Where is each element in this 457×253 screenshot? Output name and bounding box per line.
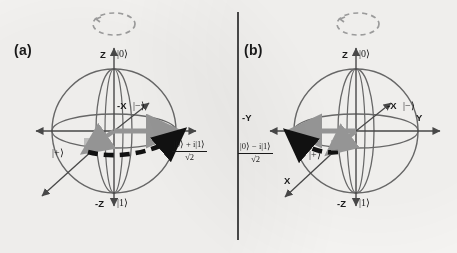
panel-a-label: (a) [14, 42, 32, 58]
panel-b: (b) Z |0⟩ -Z |1⟩ -X |−⟩ X |+⟩ Y -Y |0⟩ −… [228, 0, 457, 253]
neg-z-axis-ket-a: |1⟩ [117, 198, 128, 208]
panel-a: (a) Z |0⟩ -Z |1⟩ -X |−⟩ |+⟩ |0⟩ + i|1⟩ √… [0, 0, 228, 253]
x-axis-ket-b: |+⟩ [309, 150, 321, 160]
neg-x-axis-ket-b: |−⟩ [403, 101, 415, 111]
bloch-sphere-figure: (a) Z |0⟩ -Z |1⟩ -X |−⟩ |+⟩ |0⟩ + i|1⟩ √… [0, 0, 457, 253]
y-axis-label-b: Y [416, 113, 422, 123]
neg-x-axis-label-b: -X [387, 101, 397, 111]
state-formula-denominator-a: √2 [172, 152, 207, 163]
z-axis-label-a: Z [100, 50, 106, 60]
state-formula-numerator-b: |0⟩ − i|1⟩ [238, 142, 273, 154]
state-formula-numerator-a: |0⟩ + i|1⟩ [172, 140, 207, 152]
neg-x-axis-label-a: -X [117, 101, 127, 111]
z-axis-label-b: Z [342, 50, 348, 60]
neg-x-axis-ket-a: |−⟩ [133, 101, 145, 111]
z-axis-ket-a: |0⟩ [117, 49, 128, 59]
state-formula-denominator-b: √2 [238, 154, 273, 165]
state-formula-a: |0⟩ + i|1⟩ √2 [172, 140, 207, 163]
neg-y-axis-label-b: -Y [242, 113, 252, 123]
neg-z-axis-label-b: -Z [337, 199, 346, 209]
state-formula-b: |0⟩ − i|1⟩ √2 [238, 142, 273, 165]
x-axis-ket-a: |+⟩ [52, 148, 64, 158]
panel-b-label: (b) [244, 42, 263, 58]
z-axis-ket-b: |0⟩ [359, 49, 370, 59]
x-axis-label-b: X [284, 176, 290, 186]
neg-z-axis-label-a: -Z [95, 199, 104, 209]
neg-z-axis-ket-b: |1⟩ [359, 198, 370, 208]
